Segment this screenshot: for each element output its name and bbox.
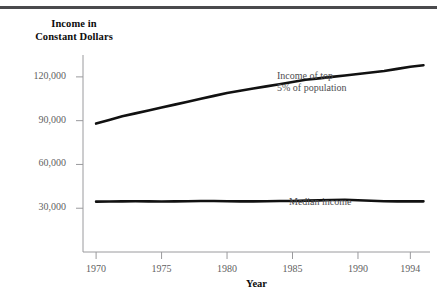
annotation-median-income: Median income: [289, 196, 351, 208]
plot-area: [0, 0, 437, 300]
annotation-top-5-percent-line-2: 5% of population: [277, 82, 346, 94]
y-tick-label: 90,000: [6, 114, 66, 125]
data-lines: [96, 65, 423, 201]
y-tick-label: 120,000: [6, 70, 66, 81]
annotation-top-5-percent: Income of top 5% of population: [277, 70, 346, 94]
x-tick-label: 1990: [335, 263, 381, 274]
annotation-top-5-percent-line-1: Income of top: [277, 70, 346, 82]
y-tick-label: 30,000: [6, 201, 66, 212]
series-line-median-income: [96, 200, 423, 202]
x-tick-label: 1980: [204, 263, 250, 274]
chart-figure: Income in Constant Dollars 30,00060,0009…: [0, 0, 437, 300]
x-tick-label: 1985: [270, 263, 316, 274]
axes: [76, 55, 430, 259]
y-tick-label: 60,000: [6, 157, 66, 168]
x-axis-title: Year: [83, 278, 430, 289]
x-tick-label: 1994: [387, 263, 433, 274]
series-line-top-5-percent: [96, 65, 423, 123]
x-tick-label: 1970: [73, 263, 119, 274]
x-tick-label: 1975: [139, 263, 185, 274]
